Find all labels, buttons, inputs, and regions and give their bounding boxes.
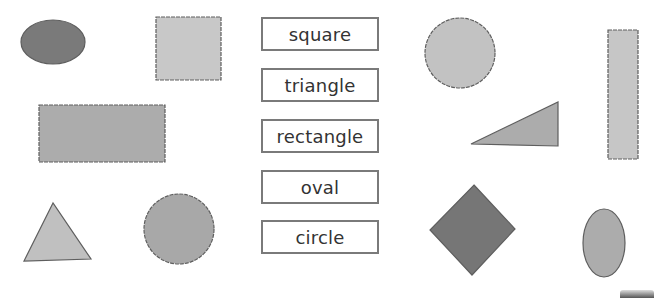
- label-text: square: [289, 24, 352, 45]
- label-text: triangle: [285, 75, 356, 96]
- label-text: circle: [295, 227, 344, 248]
- page-corner-artifact: [620, 290, 654, 298]
- shape-square-rotated[interactable]: [430, 185, 515, 275]
- shape-triangle-right[interactable]: [471, 102, 558, 146]
- label-rectangle[interactable]: rectangle: [261, 119, 379, 153]
- shape-square[interactable]: [156, 17, 221, 80]
- shape-oval-dark[interactable]: [21, 20, 85, 64]
- shape-triangle-isosceles[interactable]: [24, 203, 91, 261]
- shape-rectangle-horizontal[interactable]: [39, 105, 165, 162]
- shape-rectangle-vertical[interactable]: [608, 30, 638, 159]
- label-triangle[interactable]: triangle: [261, 68, 379, 102]
- shape-circle-right[interactable]: [425, 18, 495, 88]
- shape-oval-vertical[interactable]: [583, 209, 625, 277]
- label-text: rectangle: [277, 126, 364, 147]
- shape-circle-left[interactable]: [144, 194, 214, 264]
- label-circle[interactable]: circle: [261, 220, 379, 254]
- label-oval[interactable]: oval: [261, 170, 379, 204]
- label-text: oval: [301, 177, 340, 198]
- label-square[interactable]: square: [261, 17, 379, 51]
